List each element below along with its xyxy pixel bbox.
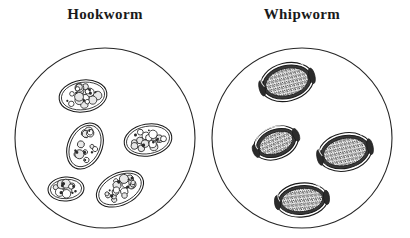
parasite-ova-figure: Hookworm Whipworm [0,0,410,238]
microscope-field-drawing [0,0,410,238]
blastomere [85,99,90,104]
blastomere [69,91,74,96]
blastomere [75,86,80,91]
blastomere [62,189,71,198]
blastomere [68,101,74,107]
field-panel-hookworm [15,48,195,228]
field-panel-whipworm [212,48,392,228]
